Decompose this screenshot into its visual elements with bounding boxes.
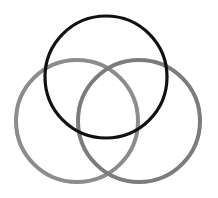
- venn-diagram: [0, 0, 218, 198]
- circle-top: [45, 16, 167, 138]
